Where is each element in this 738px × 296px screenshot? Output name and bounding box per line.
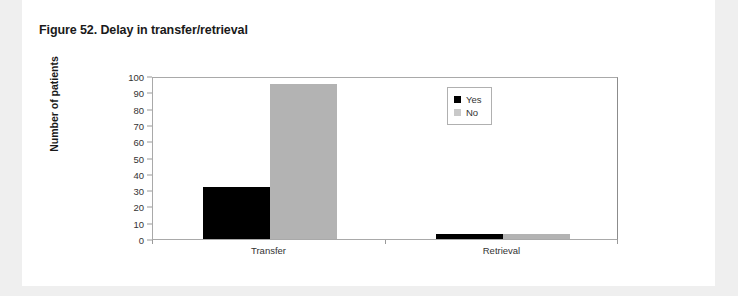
legend-item-yes: Yes [454,93,482,106]
x-tick-label: Retrieval [483,245,521,256]
legend-item-no: No [454,106,482,119]
bars-layer [153,78,617,239]
plot-area [152,77,618,240]
y-tick-label: 10 [133,218,144,229]
y-tick-label: 100 [128,72,144,83]
bar-transfer-no [270,84,337,239]
y-tick-label: 90 [133,88,144,99]
x-tick-label: Transfer [251,245,286,256]
y-axis-ticks: 0102030405060708090100 [82,77,152,241]
y-tick-label: 60 [133,137,144,148]
y-tick-label: 30 [133,186,144,197]
y-tick-label: 20 [133,202,144,213]
legend-swatch-yes-icon [454,96,461,103]
legend-swatch-no-icon [454,109,461,116]
x-axis-labels: TransferRetrieval [152,245,618,265]
bar-chart: Number of patients 010203040506070809010… [22,55,715,270]
figure-card: Figure 52. Delay in transfer/retrieval N… [22,0,715,286]
page-title: Figure 52. Delay in transfer/retrieval [39,23,248,37]
y-tick-label: 50 [133,153,144,164]
chart-legend: Yes No [447,87,492,125]
legend-label-yes: Yes [466,94,482,105]
x-tick-mark [152,240,153,244]
bar-retrieval-no [503,234,570,239]
legend-label-no: No [466,107,478,118]
bar-retrieval-yes [436,234,503,239]
y-tick-label: 80 [133,104,144,115]
bar-transfer-yes [203,187,270,239]
y-axis-title: Number of patients [48,39,60,169]
x-tick-mark [617,240,618,244]
y-tick-label: 40 [133,169,144,180]
y-tick-label: 0 [139,235,144,246]
x-tick-mark [385,240,386,244]
y-tick-label: 70 [133,120,144,131]
